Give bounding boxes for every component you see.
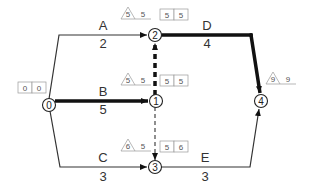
node-1-triangle: 5 5 [121,73,151,85]
activity-c-duration: 3 [99,169,106,184]
svg-text:6: 6 [126,142,131,151]
svg-text:0: 0 [23,84,28,93]
svg-text:5: 5 [179,11,184,20]
node-4-triangle: 9 9 [266,72,296,84]
svg-text:3: 3 [152,162,158,173]
node-2: 2 [149,29,162,42]
node-2-triangle: 5 5 [121,7,151,19]
activity-a-duration: 2 [99,36,106,51]
activity-e-name: E [201,150,210,165]
activity-a-name: A [99,18,108,33]
activity-b-name: B [99,84,108,99]
node-3-triangle: 6 5 [121,139,151,151]
svg-text:0: 0 [46,100,52,111]
node-4: 4 [255,95,268,108]
node-0-time-box: 0 0 [18,82,46,93]
node-3-time-box: 5 6 [160,141,188,152]
svg-text:5: 5 [179,77,184,86]
svg-text:5: 5 [126,10,131,19]
svg-text:5: 5 [165,77,170,86]
svg-text:5: 5 [165,11,170,20]
svg-text:9: 9 [271,75,276,84]
activity-b: B 5 [55,84,148,117]
node-2-time-box: 5 5 [160,9,188,20]
activity-b-duration: 5 [99,102,106,117]
network-diagram: A 2 B 5 C 3 D 4 E 3 0 1 [0,0,313,186]
svg-text:0: 0 [37,84,42,93]
activity-e-duration: 3 [201,169,208,184]
svg-text:4: 4 [258,96,264,107]
svg-text:5: 5 [141,142,146,151]
svg-text:9: 9 [286,75,291,84]
svg-text:2: 2 [152,30,158,41]
node-0: 0 [43,99,56,112]
node-1: 1 [150,95,163,108]
activity-d-duration: 4 [203,36,210,51]
svg-text:5: 5 [141,10,146,19]
svg-text:5: 5 [126,76,131,85]
node-1-time-box: 5 5 [160,75,188,86]
activity-c: C 3 [50,111,147,184]
activity-c-name: C [98,150,107,165]
activity-d-name: D [202,18,211,33]
svg-text:5: 5 [141,76,146,85]
svg-text:5: 5 [165,143,170,152]
node-3: 3 [149,161,162,174]
svg-text:6: 6 [179,143,184,152]
svg-text:1: 1 [153,96,159,107]
